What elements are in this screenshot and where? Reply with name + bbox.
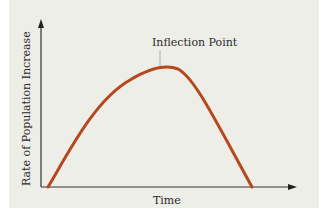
y-axis-arrow-icon [38,19,44,28]
x-axis-label: Time [153,194,181,207]
y-axis-label: Rate of Population Increase [20,31,33,186]
chart-svg: Inflection Point Time Rate of Population… [0,0,332,219]
x-axis-arrow-icon [288,184,297,190]
population-rate-curve [48,67,252,187]
inflection-point-label: Inflection Point [152,36,238,49]
